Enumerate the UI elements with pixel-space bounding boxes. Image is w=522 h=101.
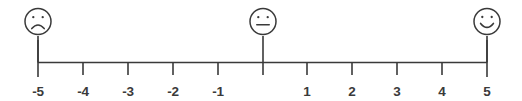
tick-minus-3-label: -3 [122, 84, 134, 99]
tick-plus-2-label: 2 [348, 84, 355, 99]
happy-face-outline [474, 9, 500, 35]
tick-minus-5-label: -5 [32, 84, 44, 99]
sad-face-marker [25, 9, 51, 63]
sad-face-icon [25, 9, 51, 35]
happy-face-right-eye [491, 16, 493, 18]
tick-plus-3-label: 3 [393, 84, 401, 99]
tick-minus-4-label: -4 [77, 84, 89, 99]
sad-face-right-eye [42, 16, 44, 18]
sad-face-left-eye [32, 16, 34, 18]
happy-face-marker [474, 9, 500, 63]
tick-plus-1-label: 1 [303, 84, 311, 99]
neutral-face-left-eye [257, 16, 259, 18]
tick-minus-2-label: -2 [167, 84, 179, 99]
rating-scale-figure: -5-4-3-2-112345 [0, 0, 522, 101]
neutral-face-outline [250, 9, 276, 35]
tick-label-group: -5-4-3-2-112345 [32, 84, 491, 99]
tick-plus-5-label: 5 [483, 84, 491, 99]
happy-face-left-eye [481, 16, 483, 18]
sad-face-outline [25, 9, 51, 35]
tick-plus-4-label: 4 [438, 84, 446, 99]
neutral-face-marker [250, 9, 276, 63]
neutral-face-icon [250, 9, 276, 35]
tick-minus-1-label: -1 [212, 84, 224, 99]
happy-face-icon [474, 9, 500, 35]
neutral-face-right-eye [267, 16, 269, 18]
number-line-chart: -5-4-3-2-112345 [0, 0, 522, 101]
